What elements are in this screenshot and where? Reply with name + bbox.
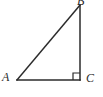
triangle-side-ab-hypotenuse <box>17 5 80 80</box>
vertex-label-a: A <box>2 71 9 83</box>
vertex-label-b: B <box>77 0 84 7</box>
right-angle-marker-icon <box>73 73 80 80</box>
right-triangle-figure: A B C <box>0 0 103 97</box>
vertex-label-c: C <box>86 72 94 84</box>
